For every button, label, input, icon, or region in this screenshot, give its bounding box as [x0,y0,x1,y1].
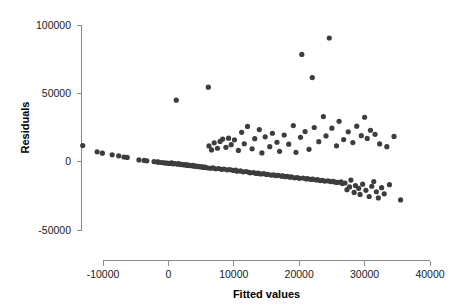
data-point [116,153,121,158]
data-point [267,144,272,149]
data-point [110,152,115,157]
data-point [236,148,241,153]
y-tick-label: -50000 [38,224,71,236]
data-point [391,134,396,139]
data-point [277,149,282,154]
data-point [252,136,257,141]
data-point [367,194,372,199]
data-point [250,146,255,151]
y-tick-label: 50000 [42,87,71,99]
data-point [327,35,332,40]
data-point [245,124,250,129]
data-point [377,141,382,146]
data-point [356,186,361,191]
data-point [374,189,379,194]
x-tick-label: -10000 [87,268,120,280]
data-point [382,191,387,196]
data-point [350,140,355,145]
data-point [316,139,321,144]
data-point [342,180,347,185]
data-point [362,115,367,120]
data-point [354,124,359,129]
data-point [363,188,368,193]
data-point [306,147,311,152]
data-point [242,141,247,146]
data-point [365,136,370,141]
data-point [291,123,296,128]
data-point [95,149,100,154]
data-point [376,195,381,200]
data-point [387,182,392,187]
data-point [348,178,353,183]
data-point [226,136,231,141]
y-axis-title: Residuals [19,102,31,154]
data-point [293,150,298,155]
x-tick-label: 40000 [415,268,444,280]
plot-canvas: -50000050000100000-100000100002000030000… [0,0,468,308]
data-point [398,197,403,202]
x-tick-label: 10000 [219,268,248,280]
data-point [329,126,334,131]
data-point [299,52,304,57]
data-point [209,147,214,152]
data-point [310,75,315,80]
data-point [371,179,376,184]
data-point [336,119,341,124]
data-point [259,150,264,155]
data-point [215,146,220,151]
data-point [384,144,389,149]
data-point [282,132,287,137]
x-tick-label: 20000 [285,268,314,280]
data-point [347,184,352,189]
data-point [144,158,149,163]
data-point [239,130,244,135]
data-point [369,184,374,189]
data-point [352,190,357,195]
x-tick-label: 0 [165,268,171,280]
data-point [212,140,217,145]
y-tick-label: 100000 [36,19,71,31]
data-point [125,155,130,160]
data-point [270,131,275,136]
data-point [286,142,291,147]
data-point [312,125,317,130]
data-point [357,192,362,197]
data-point [298,135,303,140]
data-point [206,85,211,90]
data-point [174,98,179,103]
data-point [360,182,365,187]
data-point [341,137,346,142]
data-point [334,143,339,148]
data-point [136,157,141,162]
data-point [346,129,351,134]
data-point [220,137,225,142]
data-point [232,137,237,142]
data-point [323,133,328,138]
y-tick-label: 0 [65,155,71,167]
scatter-plot-figure: -50000050000100000-100000100002000030000… [0,0,468,308]
data-point [100,151,105,156]
data-point [368,128,373,133]
data-point [359,133,364,138]
data-point [257,127,262,132]
data-point [263,134,268,139]
data-point [274,140,279,145]
data-point [321,114,326,119]
data-point [229,142,234,147]
data-point [302,129,307,134]
x-tick-label: 30000 [350,268,379,280]
data-point [80,143,85,148]
x-axis-title: Fitted values [233,288,300,300]
data-point [372,132,377,137]
data-point [379,185,384,190]
data-point [223,145,228,150]
